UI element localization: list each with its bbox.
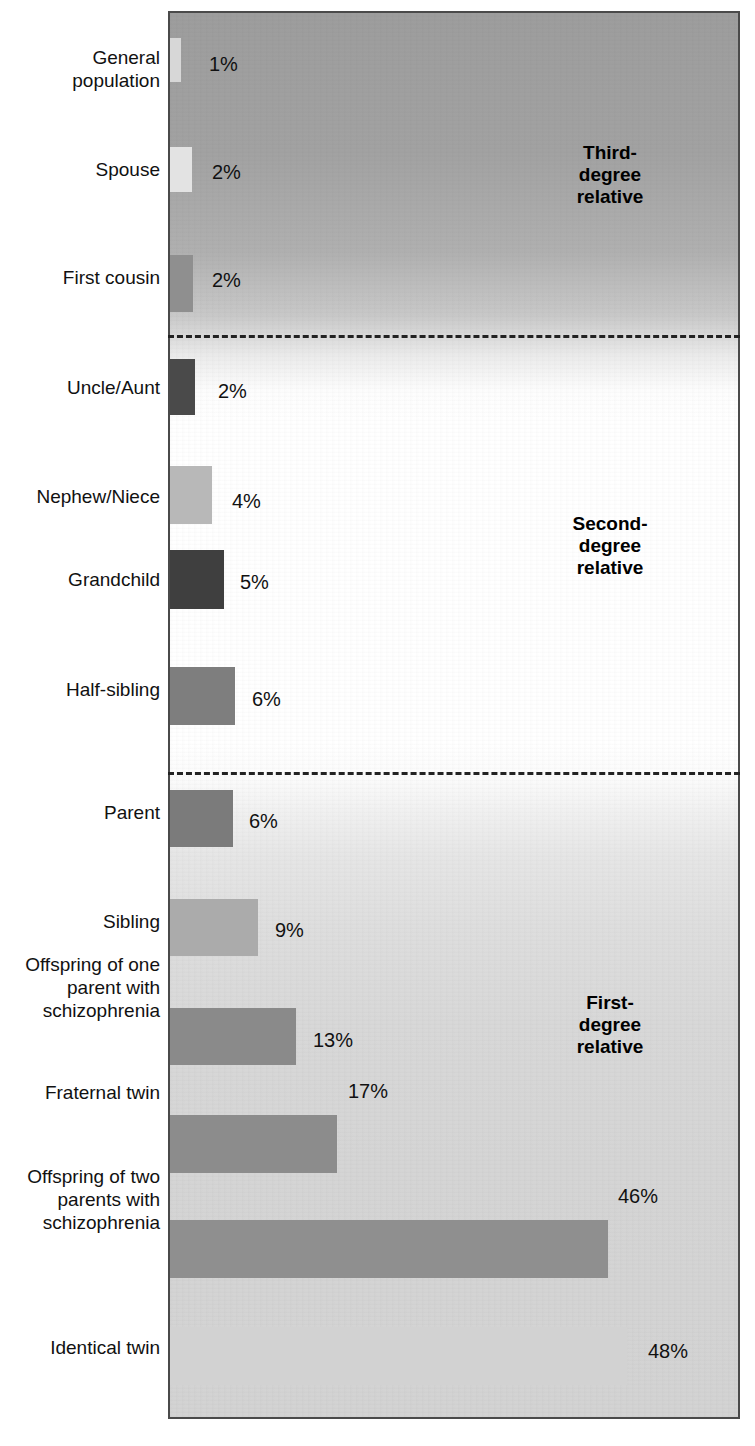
category-label-parent: Parent [0,801,160,824]
bar-uncle-aunt [170,359,195,415]
bar-fraternal-twin [170,1115,337,1173]
bar-first-cousin [170,255,193,312]
value-label-nephew-niece: 4% [232,491,261,511]
category-label-nephew-niece: Nephew/Niece [0,485,160,508]
value-label-general-population: 1% [209,54,238,74]
group-annotation-first-degree: First- degree relative [545,992,675,1058]
bar-half-sibling [170,667,235,725]
bar-offspring-one-parent [170,1008,296,1065]
value-label-fraternal-twin: 17% [348,1081,388,1101]
value-label-spouse: 2% [212,162,241,182]
group-annotation-third-degree: Third- degree relative [545,142,675,208]
category-label-offspring-two-parents: Offspring of two parents with schizophre… [0,1165,160,1234]
group-divider-third-second [168,335,740,338]
value-label-half-sibling: 6% [252,689,281,709]
bar-parent [170,790,233,847]
plot-area [168,11,740,1419]
value-label-identical-twin: 48% [648,1341,688,1361]
category-label-offspring-one-parent: Offspring of one parent with schizophren… [0,953,160,1022]
category-label-uncle-aunt: Uncle/Aunt [0,376,160,399]
bar-general-population [170,38,181,82]
group-annotation-second-degree: Second- degree relative [545,513,675,579]
value-label-grandchild: 5% [240,572,269,592]
category-label-first-cousin: First cousin [0,266,160,289]
bar-nephew-niece [170,466,212,524]
bar-spouse [170,147,192,192]
group-divider-second-first [168,772,740,775]
value-label-sibling: 9% [275,920,304,940]
value-label-parent: 6% [249,811,278,831]
schizophrenia-risk-bar-chart: General population Spouse First cousin U… [0,0,755,1446]
value-label-first-cousin: 2% [212,270,241,290]
category-label-sibling: Sibling [0,910,160,933]
category-label-general-population: General population [0,46,160,92]
bar-identical-twin [170,1327,627,1385]
value-label-offspring-two-parents: 46% [618,1186,658,1206]
category-label-identical-twin: Identical twin [0,1336,160,1359]
bar-sibling [170,899,258,956]
category-label-half-sibling: Half-sibling [0,678,160,701]
category-label-spouse: Spouse [0,158,160,181]
bar-offspring-two-parents [170,1220,608,1278]
category-label-fraternal-twin: Fraternal twin [0,1081,160,1104]
value-label-offspring-one-parent: 13% [313,1030,353,1050]
bar-grandchild [170,550,224,609]
category-label-grandchild: Grandchild [0,568,160,591]
value-label-uncle-aunt: 2% [218,381,247,401]
